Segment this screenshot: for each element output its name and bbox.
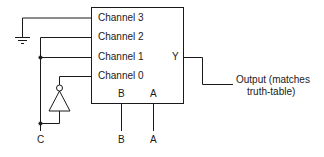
junction-dot: [39, 122, 42, 125]
channel-3-wire: [23, 18, 92, 37]
output-wire: [183, 58, 233, 85]
input-b-label: B: [118, 134, 125, 146]
channel-3-label: Channel 3: [98, 12, 144, 24]
output-note-line2: truth-table): [247, 86, 295, 98]
channel-0-wire: [60, 77, 92, 86]
junction-dot: [39, 56, 42, 59]
channel-2-label: Channel 2: [98, 31, 144, 43]
channel-1-label: Channel 1: [98, 51, 144, 63]
input-c-label: C: [37, 134, 44, 146]
select-b-internal-label: B: [118, 88, 125, 100]
inverter-input-wire: [41, 111, 60, 124]
ground-icon: [15, 38, 30, 44]
output-note-line1: Output (matches: [236, 74, 310, 86]
inverter-icon: [49, 85, 70, 111]
input-a-label: A: [150, 134, 157, 146]
select-a-internal-label: A: [150, 88, 157, 100]
diagram-canvas: Channel 3 Channel 2 Channel 1 Channel 0 …: [0, 0, 324, 157]
output-y-label: Y: [172, 51, 179, 63]
channel-0-label: Channel 0: [98, 70, 144, 82]
channel-2-wire: [41, 38, 92, 132]
